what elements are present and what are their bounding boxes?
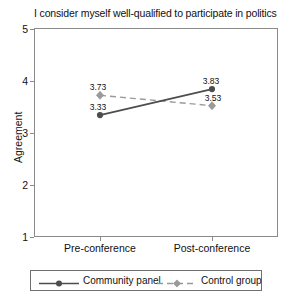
legend-swatch-solid-line — [39, 275, 79, 286]
legend-label-control-group: Control group — [201, 275, 262, 286]
community-panel-line — [100, 89, 212, 115]
data-label-community-pre: 3.33 — [90, 102, 107, 112]
control-group-marker-pre — [96, 91, 103, 99]
community-panel-marker-pre — [97, 112, 103, 118]
community-panel-marker-post — [209, 86, 215, 92]
legend: Community panel Control group — [30, 270, 262, 291]
chart-figure: I consider myself well-qualified to part… — [0, 0, 290, 300]
legend-label-community-panel: Community panel — [83, 275, 161, 286]
legend-entry-control-group: Control group — [157, 271, 262, 290]
data-label-community-post: 3.83 — [203, 76, 220, 86]
control-group-line — [100, 95, 212, 105]
data-label-control-pre: 3.73 — [90, 82, 107, 92]
series-lines — [0, 0, 290, 300]
legend-entry-community-panel: Community panel — [39, 271, 161, 290]
legend-swatch-dashed-line — [157, 275, 197, 286]
data-label-control-post: 3.53 — [205, 93, 222, 103]
